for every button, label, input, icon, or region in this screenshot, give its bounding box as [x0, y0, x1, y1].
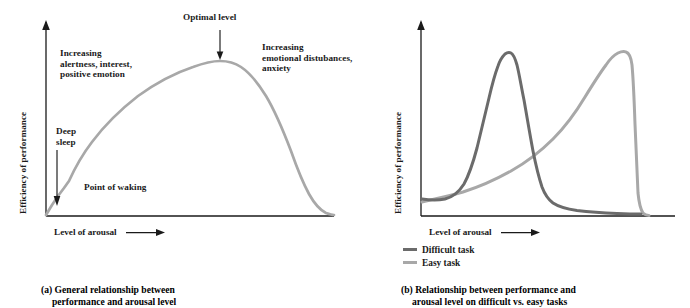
- legend-label-easy-task: Easy task: [422, 258, 460, 268]
- optimal-level-arrow-head: [217, 52, 224, 61]
- panel-a-general-relationship: Efficiency of performance Level of arous…: [0, 0, 345, 308]
- panel-b-y-axis-arrowhead: [417, 20, 425, 30]
- panel-a-plot: [0, 0, 345, 260]
- panel-b-legend: Difficult task Easy task: [403, 243, 474, 269]
- panel-a-caption: (a) General relationship between perform…: [41, 272, 301, 308]
- panel-b-difficult-vs-easy: Efficiency of performance Level of arous…: [345, 0, 690, 308]
- panel-a-caption-label: (a): [41, 284, 52, 295]
- yerkes-dodson-figure: Efficiency of performance Level of arous…: [0, 0, 690, 308]
- legend-swatch-easy-task: [403, 261, 417, 264]
- legend-label-difficult-task: Difficult task: [422, 245, 474, 255]
- annotation-increasing-emotional-disturbances: Increasing emotional distubances, anxiet…: [262, 42, 352, 74]
- panel-a-x-axis-label: Level of arousal: [54, 227, 117, 237]
- panel-a-y-axis-arrowhead: [42, 20, 50, 30]
- panel-b-x-axis-label: Level of arousal: [429, 227, 492, 237]
- panel-b-difficult-task-curve: [422, 52, 641, 214]
- legend-item-difficult-task: Difficult task: [403, 243, 474, 256]
- annotation-point-of-waking: Point of waking: [84, 182, 147, 193]
- annotation-deep-sleep: Deep sleep: [56, 126, 76, 147]
- panel-a-caption-line2: performance and arousal level: [41, 296, 301, 308]
- panel-b-caption-line2: arousal level on difficult vs. easy task…: [401, 296, 690, 308]
- panel-b-easy-task-curve: [422, 51, 649, 215]
- panel-b-y-axis-label: Efficiency of performance: [393, 112, 403, 214]
- panel-b-caption-label: (b): [401, 284, 413, 295]
- panel-a-y-axis-label: Efficiency of performance: [18, 112, 28, 214]
- legend-swatch-difficult-task: [403, 248, 417, 251]
- legend-item-easy-task: Easy task: [403, 256, 474, 269]
- panel-b-caption: (b) Relationship between performance and…: [401, 272, 690, 308]
- annotation-optimal-level: Optimal level: [183, 12, 236, 23]
- panel-a-caption-line1: General relationship between: [55, 284, 175, 295]
- annotation-increasing-alertness: Increasing alertness, interest, positive…: [60, 48, 132, 80]
- panel-b-caption-line1: Relationship between performance and: [415, 284, 576, 295]
